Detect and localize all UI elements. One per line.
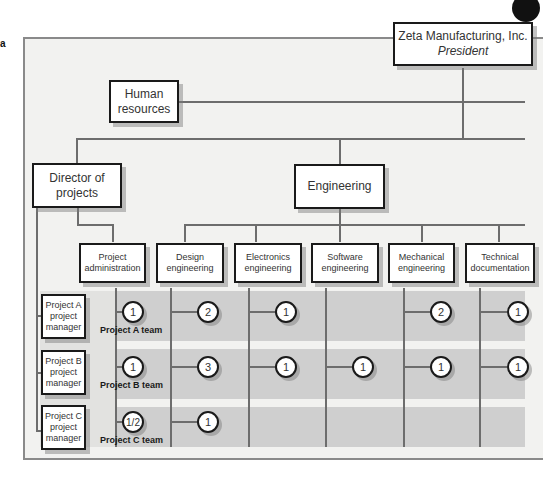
allocation-b-project-admin: 1 xyxy=(122,356,144,378)
connector-director xyxy=(76,138,78,166)
allocation-a-design: 2 xyxy=(197,301,219,323)
allocation-c-design: 1 xyxy=(197,411,219,433)
column-software-engineering[interactable]: Software engineering xyxy=(311,243,379,283)
manager-label: Project B project manager xyxy=(45,356,82,390)
allocation-b-electronics: 1 xyxy=(275,356,297,378)
connector-director-admin-h xyxy=(77,224,113,226)
project-a-manager-box[interactable]: Project A project manager xyxy=(41,294,86,339)
column-design-engineering[interactable]: Design engineering xyxy=(156,243,224,283)
column-label: Software engineering xyxy=(321,252,368,275)
president-company: Zeta Manufacturing, Inc. xyxy=(398,29,527,44)
row-a-conn-2 xyxy=(248,311,276,313)
connector-engineering xyxy=(339,138,341,165)
row-b-conn-5 xyxy=(479,366,507,368)
row-b-conn-3 xyxy=(325,366,353,368)
row-b-conn-2 xyxy=(248,366,276,368)
director-of-projects-label: Director of projects xyxy=(49,171,104,201)
engineering-label: Engineering xyxy=(307,179,371,194)
column-label: Mechanical engineering xyxy=(398,252,445,275)
connector-software xyxy=(339,224,341,242)
allocation-a-project-admin: 1 xyxy=(122,301,144,323)
allocation-a-technical: 1 xyxy=(507,301,529,323)
row-a-conn-5 xyxy=(479,311,507,313)
project-a-team-label: Project A team xyxy=(100,325,162,335)
allocation-a-mechanical: 2 xyxy=(430,301,452,323)
connector-director-admin-v2 xyxy=(112,224,114,242)
allocation-b-mechanical: 1 xyxy=(430,356,452,378)
director-of-projects-box[interactable]: Director of projects xyxy=(32,163,122,208)
connector-level2-bar xyxy=(76,138,464,140)
row-b-conn-1 xyxy=(170,366,198,368)
column-technical-documentation[interactable]: Technical documentation xyxy=(465,243,535,283)
figure-marker: a xyxy=(0,38,6,49)
column-mechanical-engineering[interactable]: Mechanical engineering xyxy=(388,243,455,283)
row-b-conn-4 xyxy=(403,366,431,368)
connector-mechanical xyxy=(421,224,423,242)
connector-engineering-trunk xyxy=(339,209,341,225)
project-a-band xyxy=(115,291,525,341)
project-b-band xyxy=(115,349,525,399)
human-resources-box[interactable]: Human resources xyxy=(109,80,179,123)
president-box[interactable]: Zeta Manufacturing, Inc. President xyxy=(393,22,533,66)
connector-electronics xyxy=(255,224,257,242)
connector-managers-trunk xyxy=(36,207,38,432)
allocation-a-electronics: 1 xyxy=(275,301,297,323)
row-c-conn-1 xyxy=(170,421,198,423)
project-c-team-label: Project C team xyxy=(100,435,163,445)
column-label: Project administration xyxy=(84,252,140,275)
project-c-band xyxy=(115,407,525,447)
connector-technical xyxy=(498,224,500,242)
connector-hr xyxy=(178,101,525,103)
project-b-team-label: Project B team xyxy=(100,380,163,390)
row-a-conn-1 xyxy=(170,311,198,313)
allocation-b-design: 3 xyxy=(197,356,219,378)
connector-columns-bar xyxy=(184,224,525,226)
engineering-box[interactable]: Engineering xyxy=(294,164,385,209)
connector-director-admin-v1 xyxy=(77,207,79,225)
column-label: Technical documentation xyxy=(470,252,529,275)
allocation-b-technical: 1 xyxy=(507,356,529,378)
connector-design xyxy=(184,224,186,242)
corner-marker-icon xyxy=(512,0,540,22)
connector-president-trunk xyxy=(462,68,464,139)
column-project-administration[interactable]: Project administration xyxy=(79,243,146,283)
allocation-c-project-admin: 1/2 xyxy=(122,411,144,433)
manager-label: Project C project manager xyxy=(45,411,82,445)
project-c-manager-box[interactable]: Project C project manager xyxy=(41,405,86,450)
column-label: Electronics engineering xyxy=(244,252,291,275)
connector-level2-bar-right xyxy=(464,138,525,140)
column-label: Design engineering xyxy=(166,252,213,275)
president-title: President xyxy=(438,44,489,59)
row-a-conn-4 xyxy=(403,311,431,313)
project-b-manager-box[interactable]: Project B project manager xyxy=(41,350,86,395)
allocation-b-software: 1 xyxy=(352,356,374,378)
column-electronics-engineering[interactable]: Electronics engineering xyxy=(234,243,302,283)
human-resources-label: Human resources xyxy=(118,87,171,117)
manager-label: Project A project manager xyxy=(45,300,81,334)
